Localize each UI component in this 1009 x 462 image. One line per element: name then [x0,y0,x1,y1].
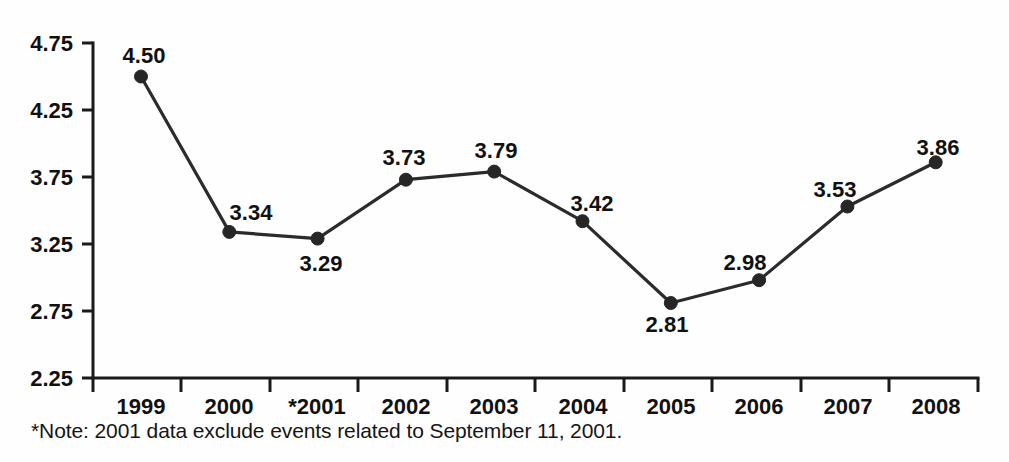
x-tick-label: 2007 [824,394,873,419]
data-point[interactable] [488,165,501,178]
y-axis-labels: 4.75 4.25 3.75 3.25 2.75 2.25 [30,31,73,391]
x-tick-label: 2000 [205,394,254,419]
data-point-label: 3.73 [383,145,426,170]
x-tick-label: 2008 [912,394,961,419]
x-tick-label: 2002 [382,394,431,419]
y-tick-label: 2.25 [30,366,73,391]
data-point-labels: 4.50 3.34 3.29 3.73 3.79 3.42 2.81 2.98 … [123,43,960,337]
x-tick-label: 2005 [647,394,696,419]
x-axis-labels: 1999 2000 *2001 2002 2003 2004 2005 2006… [117,394,961,419]
x-tick-label: 1999 [117,394,166,419]
data-point[interactable] [664,297,677,310]
x-axis-ticks [93,378,978,392]
y-axis-ticks [82,43,93,378]
data-point-label: 2.81 [646,312,689,337]
y-tick-label: 3.75 [30,165,73,190]
data-point[interactable] [311,232,324,245]
data-point-label: 3.29 [300,251,343,276]
line-chart-figure: 4.75 4.25 3.75 3.25 2.75 2.25 1999 2000 … [0,0,1009,462]
y-tick-label: 2.75 [30,299,73,324]
x-tick-label: 2003 [470,394,519,419]
y-tick-label: 3.25 [30,232,73,257]
y-tick-label: 4.75 [30,31,73,56]
data-point[interactable] [223,225,236,238]
data-point-label: 3.86 [917,135,960,160]
data-point[interactable] [576,215,589,228]
chart-canvas: 4.75 4.25 3.75 3.25 2.75 2.25 1999 2000 … [0,0,1009,462]
data-point-label: 3.53 [814,177,857,202]
data-point-label: 2.98 [724,250,767,275]
data-point-label: 3.42 [571,191,614,216]
data-point[interactable] [399,173,412,186]
data-point-label: 3.79 [475,138,518,163]
y-tick-label: 4.25 [30,98,73,123]
x-tick-label: 2004 [559,394,609,419]
data-point-label: 4.50 [123,43,166,68]
x-tick-label: *2001 [288,394,346,419]
data-point-label: 3.34 [230,200,274,225]
data-point[interactable] [135,70,148,83]
chart-footnote: *Note: 2001 data exclude events related … [31,419,622,443]
x-tick-label: 2006 [735,394,784,419]
data-point[interactable] [753,274,766,287]
